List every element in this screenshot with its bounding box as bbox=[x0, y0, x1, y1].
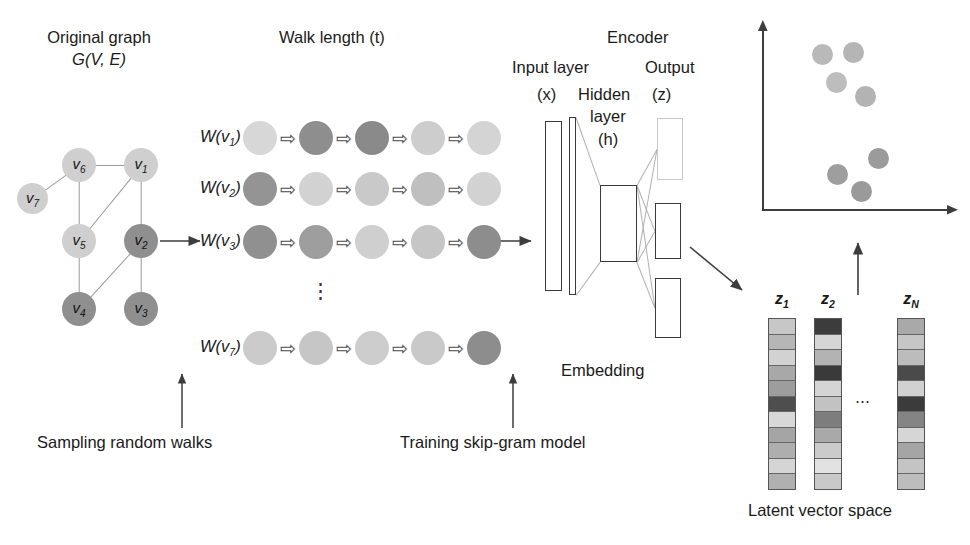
latent-vector-cell bbox=[898, 397, 924, 413]
latent-vector-cell bbox=[898, 412, 924, 428]
walk-node[interactable] bbox=[299, 172, 333, 206]
latent-vector-cell bbox=[898, 474, 924, 489]
network-output-box-2 bbox=[655, 203, 681, 259]
walk-row-label: W(v3) bbox=[200, 231, 241, 252]
graph-node-v4[interactable]: v4 bbox=[62, 292, 96, 326]
graph-node-v5[interactable]: v5 bbox=[62, 224, 96, 258]
latent-vector-cell bbox=[769, 335, 795, 351]
latent-vector-cell bbox=[815, 397, 841, 413]
original-graph-subtitle: G(V, E) bbox=[24, 50, 174, 69]
walk-node[interactable] bbox=[355, 172, 389, 206]
latent-vector-cell bbox=[898, 366, 924, 382]
walk-node[interactable] bbox=[411, 331, 445, 365]
walk-node[interactable] bbox=[467, 331, 501, 365]
network-connection bbox=[637, 262, 656, 308]
walk-node[interactable] bbox=[467, 172, 501, 206]
original-graph-title: Original graph bbox=[24, 28, 174, 47]
latent-vector-cell bbox=[898, 443, 924, 459]
walk-step-arrow-icon: ⇨ bbox=[389, 336, 411, 360]
walk-step-arrow-icon: ⇨ bbox=[277, 336, 299, 360]
network-connection bbox=[576, 262, 601, 296]
latent-vector-cell bbox=[769, 412, 795, 428]
plot-point[interactable] bbox=[851, 181, 872, 202]
latent-vectors-ellipsis: ⋯ bbox=[855, 392, 871, 409]
plot-point[interactable] bbox=[868, 148, 889, 169]
latent-vector-cell bbox=[815, 381, 841, 397]
graph-node-label: v4 bbox=[72, 299, 85, 319]
latent-vector-cell bbox=[815, 335, 841, 351]
graph-node-v1[interactable]: v1 bbox=[124, 148, 158, 182]
walk-step-arrow-icon: ⇨ bbox=[389, 126, 411, 150]
walk-node[interactable] bbox=[243, 225, 277, 259]
latent-vector-N[interactable] bbox=[897, 318, 925, 490]
graph-node-v7[interactable]: v7 bbox=[17, 183, 48, 214]
hidden-layer-symbol: (h) bbox=[598, 130, 618, 149]
latent-vector-cell bbox=[815, 443, 841, 459]
latent-vector-cell bbox=[815, 350, 841, 366]
walk-node[interactable] bbox=[299, 225, 333, 259]
training-caption: Training skip-gram model bbox=[400, 433, 586, 452]
plot-point[interactable] bbox=[855, 86, 876, 107]
graph-node-label: v1 bbox=[134, 155, 147, 175]
latent-vector-cell bbox=[769, 319, 795, 335]
latent-vector-cell bbox=[898, 319, 924, 335]
latent-vector-cell bbox=[769, 474, 795, 489]
walk-node[interactable] bbox=[355, 331, 389, 365]
plot-point[interactable] bbox=[826, 72, 847, 93]
graph-node-v3[interactable]: v3 bbox=[124, 292, 158, 326]
walk-row: W(v1)⇨⇨⇨⇨ bbox=[200, 121, 501, 155]
latent-vector-1[interactable] bbox=[768, 318, 796, 490]
walk-node[interactable] bbox=[299, 121, 333, 155]
latent-vector-cell bbox=[769, 350, 795, 366]
walk-node[interactable] bbox=[355, 225, 389, 259]
plot-point[interactable] bbox=[812, 44, 833, 65]
walk-step-arrow-icon: ⇨ bbox=[389, 230, 411, 254]
walk-length-title: Walk length (t) bbox=[279, 28, 385, 47]
walk-step-arrow-icon: ⇨ bbox=[445, 336, 467, 360]
walk-node[interactable] bbox=[299, 331, 333, 365]
walk-node[interactable] bbox=[243, 172, 277, 206]
walk-step-arrow-icon: ⇨ bbox=[445, 177, 467, 201]
walk-node[interactable] bbox=[467, 225, 501, 259]
latent-vector-label-N: zN bbox=[886, 290, 936, 310]
network-hidden-layer-box bbox=[600, 185, 637, 262]
input-layer-symbol: (x) bbox=[537, 85, 556, 104]
walk-step-arrow-icon: ⇨ bbox=[277, 126, 299, 150]
graph-node-label: v6 bbox=[72, 155, 85, 175]
latent-vector-cell bbox=[815, 428, 841, 444]
plot-point[interactable] bbox=[843, 42, 864, 63]
plot-point[interactable] bbox=[827, 164, 848, 185]
latent-vector-cell bbox=[769, 366, 795, 382]
latent-vector-cell bbox=[898, 459, 924, 475]
network-output-box-1 bbox=[657, 118, 683, 180]
walk-node[interactable] bbox=[243, 331, 277, 365]
graph-node-label: v2 bbox=[134, 231, 147, 251]
output-layer-label: Output bbox=[645, 58, 695, 77]
hidden-layer-label-2: layer bbox=[590, 107, 626, 126]
walk-step-arrow-icon: ⇨ bbox=[333, 126, 355, 150]
graph-node-v2[interactable]: v2 bbox=[124, 224, 158, 258]
latent-vector-label-1: z1 bbox=[757, 290, 807, 310]
walk-node[interactable] bbox=[411, 225, 445, 259]
walk-node[interactable] bbox=[355, 121, 389, 155]
walk-step-arrow-icon: ⇨ bbox=[445, 126, 467, 150]
walk-row: W(v7)⇨⇨⇨⇨ bbox=[200, 331, 501, 365]
latent-vector-cell bbox=[769, 428, 795, 444]
walk-node[interactable] bbox=[411, 121, 445, 155]
walk-node[interactable] bbox=[411, 172, 445, 206]
latent-vector-cell bbox=[769, 397, 795, 413]
latent-vector-label-2: z2 bbox=[803, 290, 853, 310]
graph-node-v6[interactable]: v6 bbox=[62, 148, 96, 182]
sampling-caption: Sampling random walks bbox=[37, 433, 212, 452]
output-layer-symbol: (z) bbox=[652, 85, 671, 104]
walk-step-arrow-icon: ⇨ bbox=[333, 336, 355, 360]
latent-vector-cell bbox=[815, 319, 841, 335]
walk-step-arrow-icon: ⇨ bbox=[389, 177, 411, 201]
walk-node[interactable] bbox=[243, 121, 277, 155]
walk-step-arrow-icon: ⇨ bbox=[333, 177, 355, 201]
graph-node-label: v7 bbox=[26, 189, 39, 209]
latent-vector-cell bbox=[815, 412, 841, 428]
walk-step-arrow-icon: ⇨ bbox=[445, 230, 467, 254]
walk-node[interactable] bbox=[467, 121, 501, 155]
latent-vector-2[interactable] bbox=[814, 318, 842, 490]
